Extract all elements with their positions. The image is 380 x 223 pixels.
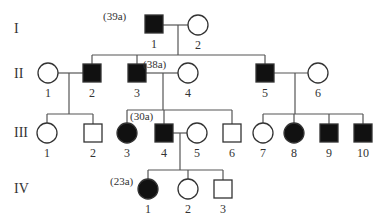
individual-number: 10	[357, 146, 369, 160]
individual-iii-8: 8	[284, 123, 304, 160]
affected-female-circle-icon	[284, 123, 304, 143]
affected-male-square-icon	[83, 64, 101, 82]
female-circle-icon	[178, 63, 198, 83]
individual-number: 3	[220, 202, 226, 216]
affected-female-circle-icon	[138, 179, 158, 199]
individual-number: 9	[326, 146, 332, 160]
individual-number: 2	[90, 146, 96, 160]
generation-label: IV	[14, 181, 29, 196]
affected-male-square-icon	[155, 124, 173, 142]
female-circle-icon	[37, 123, 57, 143]
individual-number: 1	[44, 146, 50, 160]
affected-male-square-icon	[256, 64, 274, 82]
affected-male-square-icon	[145, 15, 163, 33]
male-square-icon	[223, 124, 241, 142]
individual-number: 4	[161, 146, 167, 160]
individual-iii-2: 2	[84, 124, 102, 160]
individual-iv-3: 3	[214, 180, 232, 216]
individual-iv-1: 1(23a)	[110, 175, 158, 216]
individual-number: 5	[262, 86, 268, 100]
individual-ii-3: 3(38a)	[128, 58, 167, 100]
individual-number: 6	[315, 86, 321, 100]
female-circle-icon	[308, 63, 328, 83]
individual-iii-5: 5	[187, 123, 207, 160]
individuals: 1(39a)2123(38a)4561234(30a)56789101(23a)…	[37, 10, 372, 216]
generation-labels: IIIIIIIV	[14, 21, 29, 196]
individual-ii-2: 2	[83, 64, 101, 100]
female-circle-icon	[253, 123, 273, 143]
individual-number: 3	[124, 146, 130, 160]
individual-ii-4: 4	[178, 63, 198, 100]
individual-iii-1: 1	[37, 123, 57, 160]
individual-ii-6: 6	[308, 63, 328, 100]
individual-ii-5: 5	[256, 64, 274, 100]
individual-iii-3: 3	[117, 123, 137, 160]
pedigree-chart: IIIIIIIV 1(39a)2123(38a)4561234(30a)5678…	[0, 0, 380, 223]
individual-i-2: 2	[188, 15, 208, 52]
male-square-icon	[214, 180, 232, 198]
individual-iii-9: 9	[320, 124, 338, 160]
individual-iv-2: 2	[178, 179, 198, 216]
individual-number: 7	[260, 146, 266, 160]
individual-number: 1	[145, 202, 151, 216]
female-circle-icon	[178, 179, 198, 199]
individual-number: 6	[229, 146, 235, 160]
individual-number: 5	[194, 146, 200, 160]
individual-number: 1	[45, 86, 51, 100]
affected-male-square-icon	[354, 124, 372, 142]
male-square-icon	[84, 124, 102, 142]
female-circle-icon	[38, 63, 58, 83]
affected-male-square-icon	[320, 124, 338, 142]
individual-iii-6: 6	[223, 124, 241, 160]
individual-ii-1: 1	[38, 63, 58, 100]
individual-iii-7: 7	[253, 123, 273, 160]
individual-number: 3	[134, 86, 140, 100]
individual-iii-10: 10	[354, 124, 372, 160]
age-annotation: (38a)	[143, 58, 167, 71]
individual-number: 1	[151, 37, 157, 51]
female-circle-icon	[187, 123, 207, 143]
age-annotation: (39a)	[103, 10, 127, 23]
individual-number: 2	[195, 38, 201, 52]
female-circle-icon	[188, 15, 208, 35]
individual-number: 2	[89, 86, 95, 100]
generation-label: III	[14, 125, 28, 140]
affected-female-circle-icon	[117, 123, 137, 143]
individual-number: 8	[291, 146, 297, 160]
generation-label: II	[14, 66, 24, 81]
individual-number: 2	[185, 202, 191, 216]
individual-number: 4	[185, 86, 191, 100]
individual-i-1: 1(39a)	[103, 10, 163, 51]
age-annotation: (23a)	[110, 175, 134, 188]
generation-label: I	[14, 21, 19, 36]
age-annotation: (30a)	[130, 110, 154, 123]
